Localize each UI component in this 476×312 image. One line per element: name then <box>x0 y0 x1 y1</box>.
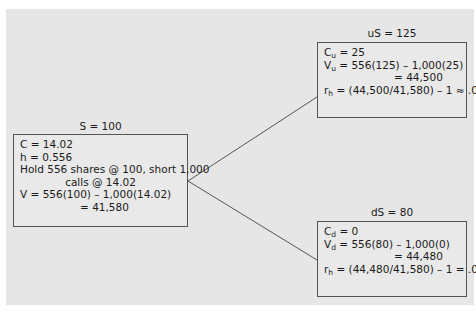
down-portfolio-value: Vd = 556(80) – 1,000(0) <box>324 238 460 251</box>
root-node-label: S = 100 <box>13 120 188 132</box>
down-node-label: dS = 80 <box>317 206 467 218</box>
up-call-value: Cu = 25 <box>324 46 460 59</box>
up-node-box: Cu = 25 Vu = 556(125) – 1,000(25) = 44,5… <box>317 42 467 118</box>
up-portfolio-result: = 44,500 <box>324 71 460 84</box>
root-node-box: C = 14.02 h = 0.556 Hold 556 shares @ 10… <box>13 134 188 227</box>
root-position-line1: Hold 556 shares @ 100, short 1,000 <box>20 163 181 176</box>
root-portfolio-value: V = 556(100) – 1,000(14.02) <box>20 188 181 201</box>
down-portfolio-result: = 44,480 <box>324 250 460 263</box>
root-call-price: C = 14.02 <box>20 138 181 151</box>
root-hedge-ratio: h = 0.556 <box>20 151 181 164</box>
down-call-value: Cd = 0 <box>324 225 460 238</box>
down-node-box: Cd = 0 Vd = 556(80) – 1,000(0) = 44,480 … <box>317 221 467 297</box>
root-position-line2: calls @ 14.02 <box>20 176 181 189</box>
up-portfolio-value: Vu = 556(125) – 1,000(25) <box>324 59 460 72</box>
edge-down <box>188 181 317 260</box>
root-portfolio-result: = 41,580 <box>20 201 181 214</box>
up-node-label: uS = 125 <box>317 27 467 39</box>
down-return: rh = (44,480/41,580) – 1 = .07 <box>324 263 460 276</box>
up-return: rh = (44,500/41,580) – 1 ≈ .07 <box>324 84 460 97</box>
